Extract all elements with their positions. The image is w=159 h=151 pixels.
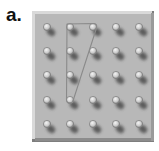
geoboard: [0, 0, 159, 151]
geoboard-canvas: [0, 0, 159, 151]
